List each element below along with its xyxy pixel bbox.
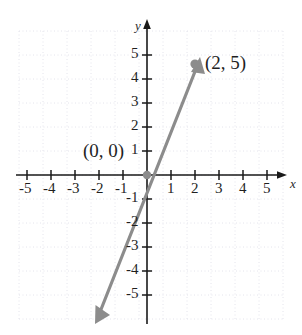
x-tick-label-neg3: -3 [67,180,80,197]
point-label-2-5: (2, 5) [205,52,246,74]
y-axis-label: y [135,18,141,34]
point-marker-2-5 [190,59,199,68]
x-tick-label-2: 2 [191,180,199,197]
x-tick-label-neg5: -5 [19,180,32,197]
graph-canvas [0,0,302,335]
y-tick-label-neg5: -5 [126,285,139,302]
y-tick-label-3: 3 [131,93,139,110]
x-axis-label: x [290,176,296,192]
y-tick-label-5: 5 [131,45,139,62]
x-tick-label-neg4: -4 [43,180,56,197]
y-tick-label-2: 2 [131,117,139,134]
y-tick-label-neg3: -3 [126,237,139,254]
point-label-origin: (0, 0) [83,140,124,162]
x-tick-label-1: 1 [167,180,175,197]
y-tick-label-neg1: -1 [126,189,139,206]
y-tick-label-neg2: -2 [126,213,139,230]
point-marker-origin [143,171,151,179]
x-tick-label-3: 3 [215,180,223,197]
y-tick-label-4: 4 [131,69,139,86]
y-tick-label-1: 1 [131,141,139,158]
x-tick-label-5: 5 [263,180,271,197]
coordinate-plane-graph: y x -5 -4 -3 -2 -1 1 2 3 4 5 5 4 3 2 1 -… [0,0,302,335]
x-tick-label-4: 4 [239,180,247,197]
plotted-line [95,57,205,324]
x-tick-label-neg2: -2 [91,180,104,197]
y-tick-label-neg4: -4 [126,261,139,278]
